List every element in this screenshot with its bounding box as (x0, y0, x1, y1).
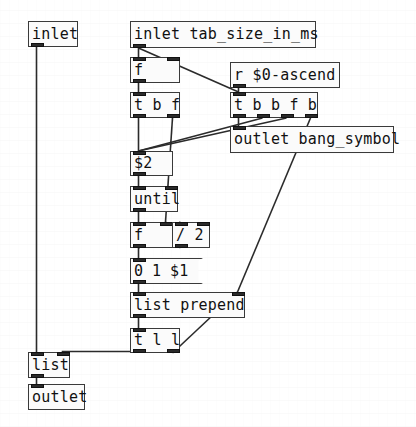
pd-box-label: t b b f b (234, 98, 317, 113)
pd-box-label: outlet bang_symbol (234, 132, 400, 147)
pd-inlet-port[interactable] (133, 222, 146, 226)
pd-box-label: inlet tab_size_in_ms (134, 27, 319, 42)
pd-outlet-port[interactable] (133, 208, 146, 212)
pd-box-f-mid[interactable]: f (130, 222, 173, 248)
pd-inlet-port[interactable] (175, 222, 188, 226)
pd-box-label: outlet (32, 390, 87, 405)
pd-outlet-port[interactable] (257, 114, 270, 118)
pd-outlet-port[interactable] (133, 244, 146, 248)
pd-box-until[interactable]: until (130, 186, 178, 212)
pd-box-label: r $0-ascend (234, 68, 336, 83)
pd-box-div2[interactable]: / 2 (172, 222, 210, 248)
pd-outlet-port[interactable] (175, 244, 188, 248)
pd-outlet-port[interactable] (133, 349, 146, 353)
pd-box-label: t b f (134, 98, 180, 113)
pd-inlet-port[interactable] (57, 352, 70, 356)
pd-outlet-port[interactable] (133, 44, 146, 48)
pd-outlet-port[interactable] (133, 280, 146, 284)
pd-box-f-top[interactable]: f (130, 57, 180, 83)
pd-inlet-port[interactable] (233, 126, 246, 130)
pd-box-label: 0 1 $1 (134, 264, 188, 279)
pd-patch-canvas[interactable]: inletinlet tab_size_in_msfr $0-ascendt b… (0, 0, 416, 427)
pd-outlet-port[interactable] (167, 114, 180, 118)
pd-outlet-port[interactable] (31, 374, 44, 378)
pd-box-msg-0-1-d1[interactable]: 0 1 $1 (130, 258, 203, 284)
pd-inlet-port[interactable] (133, 258, 146, 262)
pd-inlet-port[interactable] (167, 57, 180, 61)
pd-inlet-port[interactable] (233, 92, 246, 96)
pd-inlet-port[interactable] (165, 186, 178, 190)
pd-outlet-port[interactable] (133, 114, 146, 118)
pd-box-label: list (32, 358, 69, 373)
pd-box-list-prepend[interactable]: list prepend (130, 292, 245, 318)
pd-box-inlet-tab-size[interactable]: inlet tab_size_in_ms (130, 21, 316, 48)
pd-inlet-port[interactable] (232, 292, 245, 296)
pd-box-dollar2[interactable]: $2 (130, 151, 173, 176)
pd-box-list-obj[interactable]: list (28, 352, 70, 378)
pd-box-label: inlet (32, 27, 78, 42)
pd-outlet-port[interactable] (281, 114, 294, 118)
pd-box-t-b-f[interactable]: t b f (130, 92, 180, 118)
pd-outlet-port[interactable] (133, 172, 146, 176)
pd-box-label: / 2 (176, 228, 204, 243)
pd-box-inlet-left[interactable]: inlet (28, 21, 78, 47)
pd-box-t-b-b-f-b[interactable]: t b b f b (230, 92, 318, 118)
pd-box-label: until (134, 192, 180, 207)
pd-outlet-port[interactable] (305, 114, 318, 118)
pd-box-label: f (134, 63, 143, 78)
pd-connection-c19[interactable] (63, 352, 139, 354)
pd-outlet-port[interactable] (133, 314, 146, 318)
pd-outlet-port[interactable] (31, 43, 44, 47)
pd-inlet-port[interactable] (31, 352, 44, 356)
pd-inlet-port[interactable] (133, 292, 146, 296)
pd-inlet-port[interactable] (133, 57, 146, 61)
pd-inlet-port[interactable] (133, 92, 146, 96)
pd-outlet-port[interactable] (233, 114, 246, 118)
pd-box-label: list prepend (134, 298, 245, 313)
pd-box-outlet-bang-symbol[interactable]: outlet bang_symbol (230, 126, 394, 153)
pd-box-r-ascend[interactable]: r $0-ascend (230, 62, 340, 88)
pd-inlet-port[interactable] (133, 186, 146, 190)
pd-inlet-port[interactable] (197, 222, 210, 226)
pd-inlet-port[interactable] (133, 151, 146, 155)
pd-box-label: $2 (134, 156, 152, 171)
pd-outlet-port[interactable] (133, 79, 146, 83)
pd-box-t-l-l[interactable]: t l l (130, 328, 180, 353)
pd-box-label: f (134, 228, 143, 243)
pd-outlet-port[interactable] (167, 349, 180, 353)
pd-inlet-port[interactable] (133, 328, 146, 332)
pd-inlet-port[interactable] (31, 384, 44, 388)
pd-outlet-port[interactable] (233, 84, 246, 88)
pd-box-outlet-bottom[interactable]: outlet (28, 384, 85, 410)
pd-box-label: t l l (134, 333, 180, 348)
